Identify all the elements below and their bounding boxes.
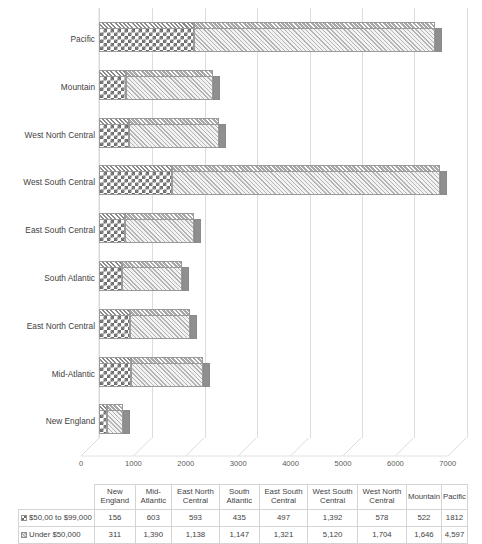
- bar-segment[interactable]: [130, 315, 190, 339]
- table-cell: 1,392: [308, 510, 358, 527]
- table-column-header: Mid-Atlantic: [135, 485, 171, 510]
- table-cell: 593: [171, 510, 219, 527]
- table-cell: 522: [406, 510, 441, 527]
- bar-segment[interactable]: [131, 363, 204, 387]
- bar-row[interactable]: [0, 70, 482, 100]
- bar-segment[interactable]: [99, 124, 129, 148]
- table-cell: 1,138: [171, 527, 219, 544]
- x-axis-tick-label: 5000: [335, 459, 352, 468]
- legend-swatch-icon: [21, 515, 27, 521]
- bar-row[interactable]: [0, 261, 482, 291]
- bar-row[interactable]: [0, 165, 482, 195]
- bar-row[interactable]: [0, 404, 482, 434]
- bar-row[interactable]: [0, 213, 482, 243]
- bar-segment[interactable]: [122, 267, 182, 291]
- bar-segment[interactable]: [99, 219, 125, 243]
- bar-row[interactable]: [0, 309, 482, 339]
- table-cell: 1,147: [219, 527, 259, 544]
- value-axis: 01000200030004000500060007000: [81, 456, 467, 457]
- chart-area: PacificMountainWest North CentralWest So…: [0, 0, 482, 478]
- table-cell: 1,321: [259, 527, 308, 544]
- bar-segment[interactable]: [107, 410, 123, 434]
- bar-segment[interactable]: [194, 28, 435, 52]
- bar-side-face: [123, 410, 130, 434]
- table-row: Under $50,0003111,3901,1381,1471,3215,12…: [19, 527, 468, 544]
- table-body: $50,00 to $99,0001566035934354971,392578…: [19, 510, 468, 544]
- table-column-header: New England: [95, 485, 136, 510]
- table-cell: 4,597: [441, 527, 467, 544]
- table-cell: 156: [95, 510, 136, 527]
- x-axis-tick-label: 3000: [230, 459, 247, 468]
- bar-segment[interactable]: [129, 124, 218, 148]
- data-table: New EnglandMid-AtlanticEast North Centra…: [18, 484, 468, 544]
- bar-side-face: [213, 76, 220, 100]
- table-cell: 311: [95, 527, 136, 544]
- table-column-header: Mountain: [406, 485, 441, 510]
- table-cell: 435: [219, 510, 259, 527]
- x-axis-tick-label: 7000: [439, 459, 456, 468]
- x-axis-tick-label: 2000: [177, 459, 194, 468]
- bar-side-face: [435, 28, 442, 52]
- table-cell: 1,704: [357, 527, 406, 544]
- table-column-header: West South Central: [308, 485, 358, 510]
- table-cell: 578: [357, 510, 406, 527]
- table-cell: 1812: [441, 510, 467, 527]
- table-header-row: New EnglandMid-AtlanticEast North Centra…: [19, 485, 468, 510]
- table-cell: 1,646: [406, 527, 441, 544]
- table-column-header: West North Central: [357, 485, 406, 510]
- bar-side-face: [440, 171, 447, 195]
- table-cell: 1,390: [135, 527, 171, 544]
- bar-side-face: [194, 219, 201, 243]
- bar-segment[interactable]: [99, 267, 122, 291]
- table-row-header: Under $50,000: [19, 527, 95, 544]
- table-column-header: Pacific: [441, 485, 467, 510]
- table-cell: 603: [135, 510, 171, 527]
- bar-side-face: [182, 267, 189, 291]
- bar-segment[interactable]: [99, 410, 107, 434]
- bar-segment[interactable]: [99, 171, 172, 195]
- table-row-header: $50,00 to $99,000: [19, 510, 95, 527]
- table-row: $50,00 to $99,0001566035934354971,392578…: [19, 510, 468, 527]
- x-axis-tick-label: 0: [79, 459, 83, 468]
- table-cell: 5,120: [308, 527, 358, 544]
- bar-segment[interactable]: [99, 363, 131, 387]
- bar-segment[interactable]: [99, 28, 194, 52]
- bar-segment[interactable]: [99, 315, 130, 339]
- bar-side-face: [219, 124, 226, 148]
- legend-swatch-icon: [21, 532, 27, 538]
- table-column-header: South Atlantic: [219, 485, 259, 510]
- bar-segment[interactable]: [99, 76, 126, 100]
- table-cell: 497: [259, 510, 308, 527]
- bar-row[interactable]: [0, 22, 482, 52]
- bar-side-face: [203, 363, 210, 387]
- bar-segment[interactable]: [126, 76, 212, 100]
- bar-segment[interactable]: [125, 219, 194, 243]
- x-axis-tick-label: 4000: [282, 459, 299, 468]
- bar-side-face: [190, 315, 197, 339]
- table-corner-cell: [19, 485, 95, 510]
- bar-row[interactable]: [0, 118, 482, 148]
- bar-row[interactable]: [0, 357, 482, 387]
- x-axis-tick-label: 1000: [125, 459, 142, 468]
- bar-segment[interactable]: [172, 171, 440, 195]
- table-column-header: East North Central: [171, 485, 219, 510]
- table-column-header: East South Central: [259, 485, 308, 510]
- x-axis-tick-label: 6000: [387, 459, 404, 468]
